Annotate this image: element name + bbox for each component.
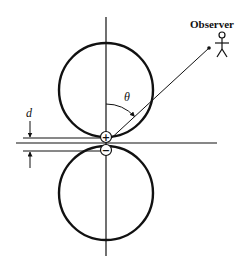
observer-label: Observer xyxy=(190,18,234,30)
d-label: d xyxy=(26,106,33,120)
observer-point xyxy=(207,46,211,50)
negative-charge: − xyxy=(101,145,112,156)
positive-charge-symbol: + xyxy=(102,132,110,143)
line-of-sight xyxy=(106,48,209,143)
negative-charge-symbol: − xyxy=(102,145,110,156)
theta-label: θ xyxy=(124,90,130,104)
observer-figure-icon xyxy=(215,32,229,57)
positive-charge: + xyxy=(101,132,112,143)
theta-arc xyxy=(106,104,135,117)
dipole-radiation-diagram: θ d + − Observer xyxy=(0,0,246,268)
